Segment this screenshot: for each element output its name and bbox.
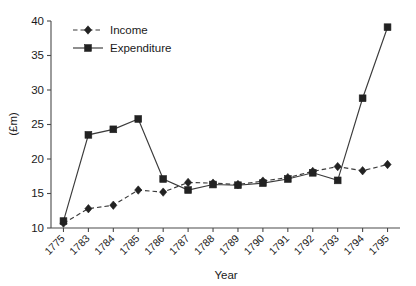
series-line-income [63,165,387,224]
data-point-marker [235,182,242,189]
data-point-marker [384,24,391,31]
x-axis-tick-label: 1795 [366,232,391,257]
x-axis-tick-label: 1789 [216,232,241,257]
data-point-marker [210,181,217,188]
data-point-marker [160,188,167,196]
y-axis-tick-label: 15 [31,187,44,199]
y-axis-tick-label: 10 [31,222,44,234]
data-point-marker [185,187,192,194]
x-axis-title: Year [214,269,237,281]
data-point-marker [359,95,366,102]
x-axis-tick-label: 1785 [117,232,142,257]
data-point-marker [384,160,391,168]
data-point-marker [85,131,92,138]
legend-item-income[interactable]: Income [73,24,148,36]
x-axis-tick-label: 1792 [291,232,316,257]
series-income [60,160,391,227]
x-axis-tick-label: 1794 [341,232,366,257]
data-point-marker [309,169,316,176]
y-axis-tick-label: 40 [31,15,44,27]
x-axis-tick-label: 1793 [316,232,341,257]
data-point-marker [110,201,117,209]
y-axis-tick-label: 35 [31,49,44,61]
data-point-marker [110,126,117,133]
data-point-marker [60,218,67,225]
data-point-marker [259,180,266,187]
x-axis-tick-label: 1787 [167,232,192,257]
x-axis-tick-label: 1791 [266,232,291,257]
line-chart: 10152025303540 1775178317841785178617871… [0,0,416,286]
data-point-marker [135,116,142,123]
x-axis: 1775178317841785178617871788178917901791… [42,228,400,257]
data-point-marker [135,186,142,194]
data-point-marker [85,204,92,212]
x-axis-tick-label: 1790 [241,232,266,257]
legend-marker-diamond-icon [84,26,91,34]
legend-label: Income [110,24,148,36]
data-point-marker [334,177,341,184]
x-axis-tick-label: 1783 [67,232,92,257]
series-expenditure [60,24,391,225]
y-axis-tick-label: 30 [31,84,44,96]
legend-marker-square-icon [85,45,92,52]
data-point-marker [284,176,291,183]
y-axis-title: (£m) [7,112,19,136]
y-axis-tick-label: 20 [31,153,44,165]
data-point-marker [160,176,167,183]
chart-container: 10152025303540 1775178317841785178617871… [0,0,416,286]
legend-item-expenditure[interactable]: Expenditure [73,42,171,54]
x-axis-tick-label: 1788 [191,232,216,257]
x-axis-tick-label: 1784 [92,232,117,257]
y-axis: 10152025303540 [31,15,51,234]
data-point-marker [359,167,366,175]
series-line-expenditure [63,27,387,221]
legend-label: Expenditure [110,42,171,54]
data-point-marker [334,162,341,170]
x-axis-tick-label: 1775 [42,232,67,257]
chart-legend: IncomeExpenditure [73,24,171,54]
y-axis-tick-label: 25 [31,118,44,130]
data-point-marker [185,178,192,186]
series-layer [60,24,391,228]
x-axis-tick-label: 1786 [142,232,167,257]
